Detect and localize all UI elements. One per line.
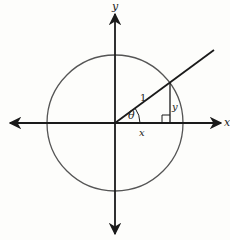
opposite-label: y <box>171 101 178 112</box>
x-axis-label: x <box>224 116 230 129</box>
angle-arc <box>135 108 140 123</box>
unit-circle-diagram: y x 1 θ x y <box>0 0 230 240</box>
adjacent-label: x <box>139 127 145 138</box>
hypotenuse-label: 1 <box>140 92 146 103</box>
y-axis-label: y <box>111 0 119 13</box>
angle-label: θ <box>128 109 135 122</box>
right-angle-marker <box>162 115 170 123</box>
